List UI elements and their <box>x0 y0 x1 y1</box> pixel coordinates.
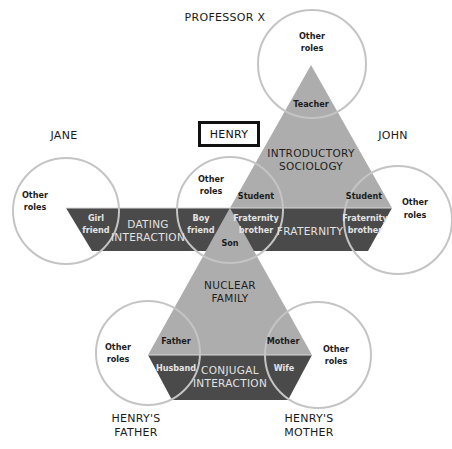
label-professor-x: PROFESSOR X <box>185 11 266 24</box>
role-set-diagram: PROFESSOR X JANE JOHN HENRY'S FATHER HEN… <box>0 0 452 449</box>
other-roles-professor-2: roles <box>301 43 324 53</box>
role-girlfriend-2: friend <box>82 225 110 235</box>
other-roles-father-2: roles <box>107 354 130 364</box>
role-frat-brother-henry-2: brother <box>239 225 273 235</box>
label-jane: JANE <box>50 129 78 142</box>
label-conjugal-2: INTERACTION <box>193 377 267 389</box>
other-roles-jane-2: roles <box>24 202 47 212</box>
label-father-line2: FATHER <box>114 426 157 439</box>
focal-person-henry: HENRY <box>198 121 260 147</box>
label-nuclear-2: FAMILY <box>211 292 248 304</box>
role-mother: Mother <box>267 336 300 346</box>
other-roles-john-1: Other <box>402 197 428 207</box>
label-fraternity: FRATERNITY <box>277 225 344 237</box>
label-intro-soc-1: INTRODUCTORY <box>267 147 355 159</box>
role-husband: Husband <box>156 363 196 373</box>
role-student-henry: Student <box>238 191 275 201</box>
other-roles-mother-2: roles <box>325 356 348 366</box>
role-boyfriend-1: Boy <box>192 213 210 223</box>
role-frat-brother-henry-1: Fraternity <box>233 213 279 223</box>
role-frat-brother-john-2: brother <box>348 225 382 235</box>
other-roles-john-2: roles <box>404 210 427 220</box>
other-roles-jane-1: Other <box>22 190 48 200</box>
other-roles-father-1: Other <box>105 342 131 352</box>
role-boyfriend-2: friend <box>187 225 215 235</box>
role-son: Son <box>221 238 238 248</box>
label-mother-line2: MOTHER <box>284 426 334 439</box>
label-mother-line1: HENRY'S <box>284 412 333 425</box>
role-girlfriend-1: Girl <box>88 213 104 223</box>
role-frat-brother-john-1: Fraternity <box>342 213 388 223</box>
label-conjugal-1: CONJUGAL <box>201 364 259 376</box>
label-father-line1: HENRY'S <box>111 412 160 425</box>
label-nuclear-1: NUCLEAR <box>204 279 256 291</box>
other-roles-professor-1: Other <box>299 31 325 41</box>
label-john: JOHN <box>377 129 408 142</box>
label-dating-2: INTERACTION <box>111 231 185 243</box>
label-intro-soc-2: SOCIOLOGY <box>279 160 343 172</box>
role-wife: Wife <box>274 363 295 373</box>
label-dating-1: DATING <box>127 218 169 230</box>
other-roles-mother-1: Other <box>323 344 349 354</box>
other-roles-henry-2: roles <box>200 186 223 196</box>
role-teacher: Teacher <box>293 99 328 109</box>
other-roles-henry-1: Other <box>198 174 224 184</box>
role-father: Father <box>161 336 191 346</box>
role-student-john: Student <box>346 191 383 201</box>
